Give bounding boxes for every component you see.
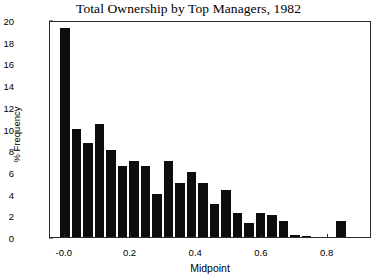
plot-area — [49, 21, 371, 238]
bars-layer — [50, 22, 370, 237]
x-tick-label: 0.4 — [175, 247, 215, 258]
y-tick-label: 2 — [0, 211, 14, 222]
y-tick-label: 14 — [0, 81, 14, 92]
x-tick-label: 0.8 — [307, 247, 347, 258]
histogram-bar — [267, 215, 277, 237]
histogram-bar — [244, 223, 254, 237]
x-tick-mark — [327, 234, 328, 238]
histogram-bar — [210, 204, 220, 237]
y-tick-label: 4 — [0, 189, 14, 200]
histogram-bar — [198, 183, 208, 237]
histogram-bar — [95, 124, 105, 237]
histogram-bar — [164, 161, 174, 237]
histogram-bar — [129, 161, 139, 237]
histogram-bar — [187, 172, 197, 237]
y-tick-label: 18 — [0, 37, 14, 48]
histogram-bar — [336, 221, 346, 237]
histogram-bar — [106, 150, 116, 237]
x-tick-label: 0.6 — [241, 247, 281, 258]
histogram-figure: Total Ownership by Top Managers, 1982 % … — [0, 0, 377, 277]
histogram-bar — [152, 194, 162, 237]
y-axis: % Frequency 02468101214161820 — [0, 0, 49, 277]
y-tick-label: 8 — [0, 146, 14, 157]
y-tick-label: 12 — [0, 102, 14, 113]
y-tick-label: 20 — [0, 16, 14, 27]
x-tick-mark — [261, 234, 262, 238]
x-tick-mark — [64, 234, 65, 238]
x-tick-label: 0.2 — [110, 247, 150, 258]
x-tick-mark — [195, 234, 196, 238]
chart-title: Total Ownership by Top Managers, 1982 — [0, 1, 377, 17]
histogram-bar — [290, 235, 300, 237]
histogram-bar — [279, 221, 289, 237]
y-tick-label: 6 — [0, 167, 14, 178]
y-tick-label: 16 — [0, 59, 14, 70]
x-axis-label: Midpoint — [49, 262, 371, 274]
histogram-bar — [141, 166, 151, 237]
histogram-bar — [72, 129, 82, 238]
histogram-bar — [233, 213, 243, 237]
y-tick-label: 10 — [0, 124, 14, 135]
histogram-bar — [60, 28, 70, 237]
x-tick-mark — [130, 234, 131, 238]
histogram-bar — [302, 236, 312, 237]
histogram-bar — [221, 190, 231, 237]
x-tick-label: -0.0 — [44, 247, 84, 258]
histogram-bar — [118, 166, 128, 237]
x-axis: Midpoint -0.00.20.40.60.8 — [0, 238, 377, 277]
histogram-bar — [83, 143, 93, 237]
histogram-bar — [175, 183, 185, 237]
